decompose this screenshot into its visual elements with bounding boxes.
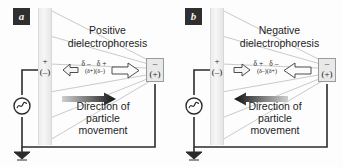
electrode-right-a: – (+) [146, 58, 164, 82]
panel-tag-b: b [185, 8, 202, 25]
panel-a-title: Positive dielectrophoresis [50, 24, 165, 49]
electrode-right-b: – (+) [318, 58, 336, 82]
charge-top-left: δ– [82, 59, 93, 68]
panel-b-title-line1: Negative [222, 24, 337, 37]
particle-charge-row-top: δ+ δ– [244, 60, 290, 68]
ground-icon [14, 147, 30, 160]
panel-b-title-line2: dielectrophoresis [222, 37, 337, 50]
charge-top-right: δ+ [97, 59, 109, 68]
charge-bottom-left: (δ–) [257, 68, 267, 74]
electrode-left-b: + (–) [208, 57, 226, 81]
panel-tag-a: a [13, 8, 30, 25]
panel-b-title: Negative dielectrophoresis [222, 24, 337, 49]
electrode-left-sign-bottom: (–) [208, 66, 226, 78]
charge-bottom-right: (δ+) [267, 68, 277, 74]
panel-a: a Positive dielectrophoresis + (–) – (+)… [0, 0, 171, 167]
electrode-left-sign-bottom: (–) [36, 66, 54, 78]
particle-charges-a: δ– δ+ (δ+)(δ–) [72, 60, 118, 75]
electrode-left-a: + (–) [36, 57, 54, 81]
movement-label-line3: movement [48, 124, 158, 136]
charge-bottom-left: (δ+) [85, 68, 95, 74]
movement-label-a: Direction of particle movement [48, 100, 158, 136]
particle-charges-b: δ+ δ– (δ–)(δ+) [244, 60, 290, 75]
charge-bottom-right: (δ–) [95, 68, 105, 74]
movement-label-line1: Direction of [48, 100, 158, 112]
particle-charge-row-bottom: (δ+)(δ–) [72, 68, 118, 75]
dielectrophoresis-figure: a Positive dielectrophoresis + (–) – (+)… [0, 0, 343, 167]
panel-a-title-line2: dielectrophoresis [50, 37, 165, 50]
movement-label-line2: particle [220, 112, 330, 124]
ac-source [14, 98, 30, 114]
electrode-right-sign-bottom: (+) [319, 68, 335, 80]
charge-top-left: δ+ [254, 59, 266, 68]
movement-label-line1: Direction of [220, 100, 330, 112]
particle-charge-row-bottom: (δ–)(δ+) [244, 68, 290, 75]
movement-label-line3: movement [220, 124, 330, 136]
ground-icon [186, 147, 202, 160]
particle-charge-row-top: δ– δ+ [72, 60, 118, 68]
movement-label-line2: particle [48, 112, 158, 124]
charge-top-right: δ– [269, 59, 280, 68]
movement-label-b: Direction of particle movement [220, 100, 330, 136]
electrode-right-sign-bottom: (+) [147, 68, 163, 80]
panel-b: b Negative dielectrophoresis + (–) – (+)… [172, 0, 343, 167]
panel-a-title-line1: Positive [50, 24, 165, 37]
ac-source [186, 98, 202, 114]
